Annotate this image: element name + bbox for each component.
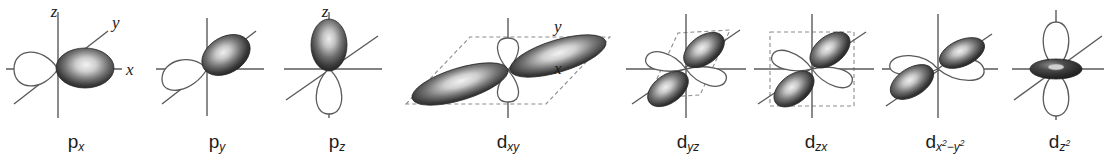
axis-label-x: x — [125, 60, 134, 79]
orbital-subscript: zx — [815, 140, 827, 154]
orbital-subscript: xy — [507, 140, 519, 154]
orbital-label-d-zx: dzx — [752, 132, 880, 153]
orbital-superscript: 2 — [1065, 138, 1070, 148]
orbital-panel-p-y: py — [152, 0, 282, 157]
orbital-panel-d-x2-y2: dx2−y2 — [880, 0, 1010, 157]
lobe-left-d-xy — [408, 54, 513, 114]
orbital-label-d-x2-y2: dx2−y2 — [880, 132, 1010, 153]
orbital-symbol: d — [497, 131, 508, 152]
orbital-label-d-xy: dxy — [392, 132, 624, 153]
orbital-symbol: d — [677, 131, 688, 152]
lobe-positive-p-x — [56, 48, 114, 88]
orbital-drawing-d-xy: y x — [392, 0, 624, 130]
orbital-panel-d-yz: dyz — [624, 0, 752, 157]
orbital-symbol: p — [68, 131, 79, 152]
orbital-label-d-yz: dyz — [624, 132, 752, 153]
orbital-drawing-d-zx — [752, 0, 880, 130]
lobe-lower-right-d-yz — [686, 67, 726, 86]
axis-label-y: y — [110, 13, 120, 32]
orbital-subscript-tail: −y — [947, 140, 960, 154]
lobe-negative-p-y — [162, 60, 207, 91]
orbital-drawing-d-yz — [624, 0, 752, 130]
orbital-symbol: d — [1049, 131, 1060, 152]
lobe-down-d-z2 — [1043, 74, 1069, 116]
lobe-lower-right-d-zx — [812, 67, 852, 88]
orbital-symbol: p — [329, 131, 340, 152]
orbital-drawing-p-z: z — [282, 0, 392, 130]
lobe-upper-left-d-yz — [646, 52, 686, 71]
lobe-positive-p-y — [194, 26, 257, 84]
lobe-upper-left-d-zx — [772, 50, 812, 71]
orbital-subscript: yz — [687, 140, 699, 154]
orbital-superscript-tail: 2 — [960, 138, 965, 148]
orbital-panel-p-z: z pz — [282, 0, 392, 157]
lobe-negative-p-x — [14, 52, 58, 86]
orbital-drawing-p-x: z y x — [0, 0, 152, 130]
axis-label-y: y — [552, 17, 562, 36]
orbital-label-d-z2: dz2 — [1010, 132, 1109, 153]
orbital-drawing-p-y — [152, 0, 282, 130]
orbital-drawing-d-x2-y2 — [880, 0, 1010, 130]
orbital-panel-p-x: z y x px — [0, 0, 152, 157]
orbital-drawing-d-z2 — [1010, 0, 1109, 130]
orbital-subscript: z — [339, 140, 345, 154]
lobe-positive-p-z — [311, 19, 347, 71]
axis-label-z: z — [50, 2, 58, 21]
orbital-label-p-x: px — [0, 132, 152, 153]
orbital-panel-d-zx: dzx — [752, 0, 880, 157]
torus-inner-hole-d-z2 — [1048, 64, 1064, 70]
orbital-panel-d-xy: y x dxy — [392, 0, 624, 157]
axis-label-x: x — [553, 59, 562, 78]
orbital-diagram-figure: z y x px py — [0, 0, 1109, 157]
orbital-symbol: p — [209, 131, 220, 152]
orbital-symbol: d — [805, 131, 816, 152]
axis-label-z: z — [321, 2, 329, 21]
orbital-panel-d-z2: dz2 — [1010, 0, 1109, 157]
orbital-label-p-y: py — [152, 132, 282, 153]
orbital-subscript: y — [219, 140, 225, 154]
orbital-label-p-z: pz — [282, 132, 392, 153]
orbital-symbol: d — [925, 131, 936, 152]
orbital-subscript: x — [78, 140, 84, 154]
